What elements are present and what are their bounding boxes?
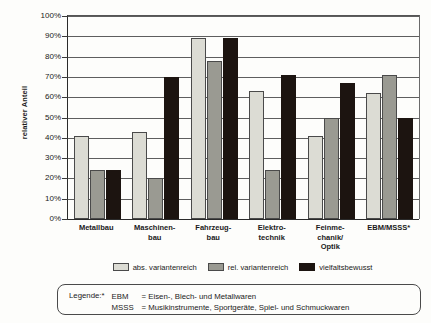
series-legend: abs. variantenreichrel. variantenreichvi… <box>67 261 418 273</box>
bar <box>223 38 238 219</box>
x-category-label: Fahrzeug-bau <box>184 223 243 242</box>
y-tick-label: 20% <box>15 174 61 182</box>
bar <box>382 75 397 219</box>
bar <box>90 170 105 219</box>
footnote-box: Legende:* EBM= Eisen-, Blech- und Metall… <box>57 284 421 315</box>
bar <box>164 77 179 219</box>
bar <box>106 170 121 219</box>
y-tick-label: 70% <box>15 73 61 81</box>
bar <box>398 118 413 220</box>
y-tick-label: 0% <box>15 215 61 223</box>
bar-group <box>129 16 182 219</box>
legend-item[interactable]: vielfaltsbewusst <box>299 263 372 272</box>
legend-swatch-icon <box>299 263 315 271</box>
bar-group <box>71 16 124 219</box>
y-tick-mark <box>62 219 68 220</box>
bar <box>148 178 163 219</box>
bar <box>265 170 280 219</box>
legend-swatch-icon <box>113 263 129 271</box>
y-tick-label: 80% <box>15 53 61 61</box>
x-category-label: Feinme-chanik/Optik <box>301 223 360 252</box>
legend-swatch-icon <box>208 263 224 271</box>
y-tick-label: 10% <box>15 195 61 203</box>
bar <box>308 136 323 219</box>
legend-item[interactable]: rel. variantenreich <box>208 263 288 272</box>
y-tick-label: 100% <box>15 12 61 20</box>
bar <box>281 75 296 219</box>
x-category-label: Elektro-technik <box>243 223 302 242</box>
legend-label: rel. variantenreich <box>228 263 288 272</box>
legend-label: abs. variantenreich <box>133 263 197 272</box>
x-category-label-line: Fahrzeug- <box>184 223 243 233</box>
bar <box>340 83 355 219</box>
x-category-label-line: chanik/ <box>301 233 360 243</box>
legend-label: vielfaltsbewusst <box>319 263 372 272</box>
bar <box>74 136 89 219</box>
bar-group <box>305 16 358 219</box>
footnote-title: Legende:* <box>69 291 105 300</box>
footnote-expansion: = Musikinstrumente, Sportgeräte, Spiel- … <box>142 303 350 312</box>
footnote-lines: EBM= Eisen-, Blech- und MetallwarenMSSS=… <box>112 292 350 313</box>
plot-area: 0%10%20%30%40%50%60%70%80%90%100% <box>67 15 420 219</box>
x-axis-category-labels: MetallbauMaschinen-bauFahrzeug-bauElektr… <box>67 223 418 263</box>
x-category-label: EBM/MSSS* <box>360 223 419 233</box>
legend-item[interactable]: abs. variantenreich <box>113 263 197 272</box>
x-category-label-line: Maschinen- <box>126 223 185 233</box>
bar-group <box>188 16 241 219</box>
bar <box>132 132 147 219</box>
footnote-expansion: = Eisen-, Blech- und Metallwaren <box>142 292 257 301</box>
y-tick-label: 40% <box>15 134 61 142</box>
footnote-line: MSSS= Musikinstrumente, Sportgeräte, Spi… <box>112 303 350 312</box>
bar <box>207 61 222 219</box>
bar-series-container <box>68 16 419 219</box>
bar <box>324 118 339 220</box>
chart-figure: relativer Anteil 0%10%20%30%40%50%60%70%… <box>0 0 431 323</box>
footnote-abbreviation: MSSS <box>112 303 142 312</box>
x-category-label: Metallbau <box>67 223 126 233</box>
y-tick-label: 90% <box>15 32 61 40</box>
bar <box>249 91 264 219</box>
footnote-line: EBM= Eisen-, Blech- und Metallwaren <box>112 292 350 301</box>
bar <box>366 93 381 219</box>
x-category-label-line: EBM/MSSS* <box>360 223 419 233</box>
x-category-label-line: bau <box>126 233 185 243</box>
y-tick-label: 30% <box>15 154 61 162</box>
y-tick-label: 50% <box>15 114 61 122</box>
x-category-label-line: Metallbau <box>67 223 126 233</box>
bar-group <box>363 16 416 219</box>
y-tick-label: 60% <box>15 93 61 101</box>
gridline <box>68 219 419 220</box>
x-category-label: Maschinen-bau <box>126 223 185 242</box>
bar <box>191 38 206 219</box>
x-category-label-line: Elektro- <box>243 223 302 233</box>
x-category-label-line: Feinme- <box>301 223 360 233</box>
x-category-label-line: Optik <box>301 242 360 252</box>
bar-group <box>246 16 299 219</box>
x-category-label-line: bau <box>184 233 243 243</box>
footnote-abbreviation: EBM <box>112 292 142 301</box>
x-category-label-line: technik <box>243 233 302 243</box>
